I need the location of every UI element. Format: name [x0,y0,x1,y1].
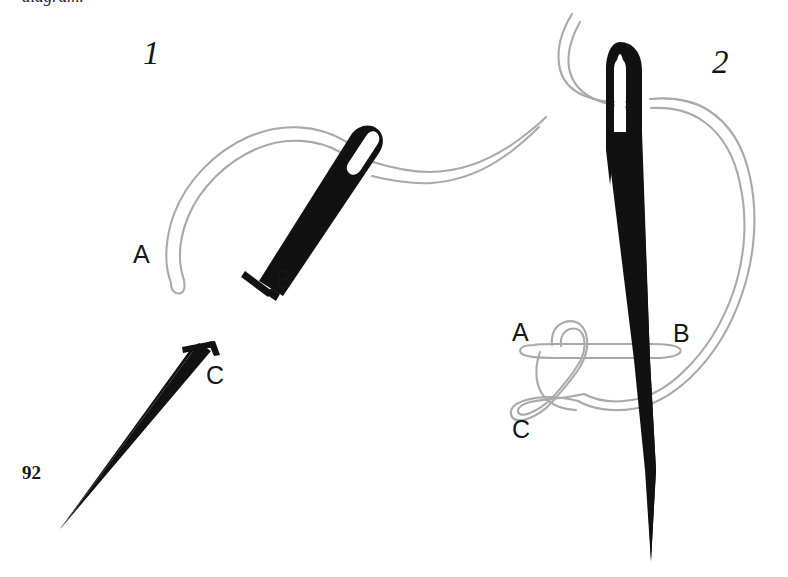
step-2-group [511,14,755,562]
step-2-label-b: B [673,319,690,348]
step-1-second-needle [60,341,220,529]
page-number: 92 [22,462,41,484]
needle-thread-figure [0,0,788,577]
step-1-needle [241,126,383,301]
step-2-needle [606,42,656,562]
step-2-label-a: A [512,318,529,347]
step-2-label-c: C [512,415,530,444]
step-1-group [60,117,546,529]
step-1-label-a: A [133,240,150,269]
illustration-page: diagram. [0,0,788,577]
step-1-label-b: B [275,265,292,294]
step-2-number: 2 [712,44,729,81]
step-1-number: 1 [143,35,160,72]
step-1-label-c: C [206,361,224,390]
